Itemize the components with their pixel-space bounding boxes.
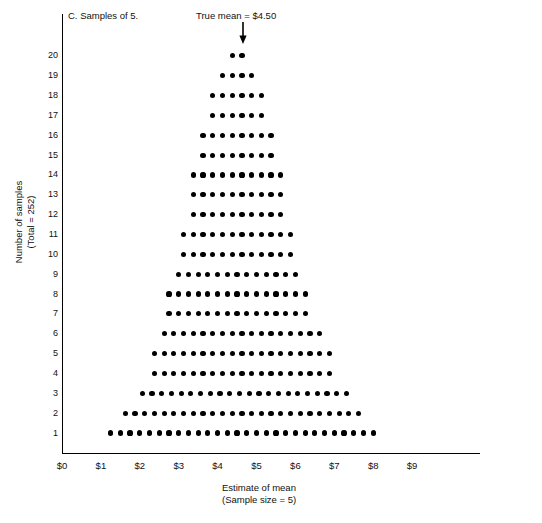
dot-mark <box>278 232 283 237</box>
dot-mark <box>220 172 225 177</box>
dot-mark <box>259 411 264 416</box>
dot-mark <box>220 232 225 237</box>
dot-mark <box>298 331 303 336</box>
dot-mark <box>205 311 210 316</box>
dot-mark <box>220 411 225 416</box>
dot-mark <box>278 371 283 376</box>
dot-mark <box>200 172 205 177</box>
dot-mark <box>298 371 303 376</box>
dot-mark <box>225 291 230 296</box>
dot-mark <box>273 272 278 277</box>
dot-mark <box>162 411 167 416</box>
dot-mark <box>332 430 337 435</box>
dot-mark <box>244 311 249 316</box>
dot-mark <box>259 113 264 118</box>
dot-mark <box>268 371 273 376</box>
dot-mark <box>132 411 137 416</box>
dot-mark <box>249 73 254 78</box>
dot-mark <box>225 311 230 316</box>
dot-mark <box>171 331 176 336</box>
dot-mark <box>220 153 225 158</box>
dot-mark <box>225 430 230 435</box>
x-axis-title-line1: Estimate of mean <box>222 482 296 494</box>
dot-mark <box>249 153 254 158</box>
dot-mark <box>191 351 196 356</box>
dot-mark <box>249 232 254 237</box>
dot-mark <box>234 430 239 435</box>
dot-mark <box>239 212 244 217</box>
dot-mark <box>244 291 249 296</box>
dot-mark <box>230 113 235 118</box>
dot-mark <box>159 391 164 396</box>
dot-mark <box>298 351 303 356</box>
dot-mark <box>312 430 317 435</box>
dot-mark <box>307 331 312 336</box>
dot-mark <box>191 192 196 197</box>
dot-mark <box>244 272 249 277</box>
dot-mark <box>239 252 244 257</box>
dot-mark <box>176 430 181 435</box>
dot-mark <box>239 371 244 376</box>
dot-mark <box>249 331 254 336</box>
dot-mark <box>317 371 322 376</box>
dot-mark <box>249 172 254 177</box>
dot-mark <box>227 391 232 396</box>
dot-mark <box>293 311 298 316</box>
dot-mark <box>288 411 293 416</box>
dot-mark <box>186 291 191 296</box>
dot-mark <box>288 252 293 257</box>
dot-mark <box>239 53 244 58</box>
dot-mark <box>268 331 273 336</box>
dot-mark <box>293 272 298 277</box>
dot-mark <box>186 430 191 435</box>
dot-mark <box>268 153 273 158</box>
dot-mark <box>239 331 244 336</box>
dot-mark <box>303 430 308 435</box>
dot-mark <box>293 291 298 296</box>
dot-mark <box>220 252 225 257</box>
dot-mark <box>259 252 264 257</box>
dot-mark <box>239 351 244 356</box>
dot-mark <box>225 272 230 277</box>
dot-mark <box>230 53 235 58</box>
dot-mark <box>264 272 269 277</box>
dot-mark <box>317 351 322 356</box>
dot-mark <box>217 391 222 396</box>
dot-mark <box>196 291 201 296</box>
dot-mark <box>210 212 215 217</box>
dot-mark <box>268 252 273 257</box>
y-axis-title-line2: (Total = 252) <box>25 142 37 302</box>
dot-mark <box>210 172 215 177</box>
dot-mark <box>239 172 244 177</box>
dot-mark <box>351 430 356 435</box>
dot-mark <box>244 430 249 435</box>
dot-mark <box>266 391 271 396</box>
dot-mark <box>181 232 186 237</box>
dot-mark <box>249 133 254 138</box>
dot-mark <box>268 133 273 138</box>
dot-mark <box>210 371 215 376</box>
dot-mark <box>315 391 320 396</box>
dot-mark <box>230 73 235 78</box>
dot-mark <box>288 331 293 336</box>
dot-mark <box>142 411 147 416</box>
dot-mark <box>317 411 322 416</box>
dot-mark <box>200 153 205 158</box>
dot-mark <box>288 232 293 237</box>
dot-mark <box>259 192 264 197</box>
dot-mark <box>118 430 123 435</box>
dot-mark <box>230 232 235 237</box>
dot-mark <box>259 133 264 138</box>
dot-mark <box>239 93 244 98</box>
dot-mark <box>268 411 273 416</box>
dot-mark <box>215 430 220 435</box>
dot-mark <box>307 411 312 416</box>
dot-mark <box>181 411 186 416</box>
dot-mark <box>239 411 244 416</box>
y-axis-title-line1: Number of samples <box>13 142 25 302</box>
dot-mark <box>157 430 162 435</box>
dot-mark <box>181 252 186 257</box>
dot-mark <box>264 311 269 316</box>
dot-mark <box>278 351 283 356</box>
dot-mark <box>205 272 210 277</box>
